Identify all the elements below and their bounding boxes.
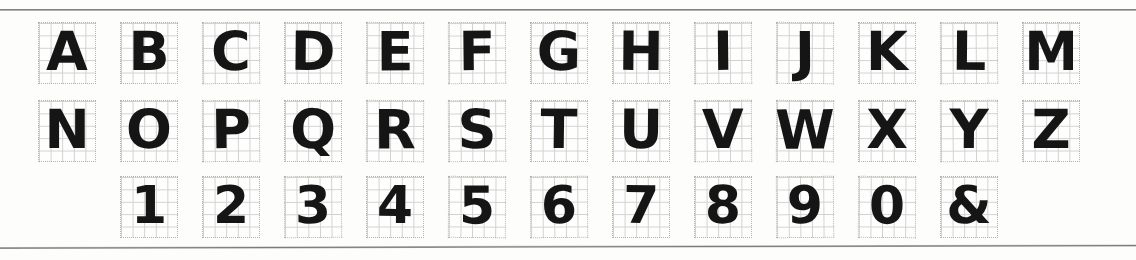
glyph-box: 9 [776, 176, 834, 238]
glyph-box: U [612, 100, 670, 162]
letters-row-1: ABCDEFGHIJKLM [0, 22, 1104, 94]
glyph-ampersand: & [940, 176, 998, 238]
glyph-9: 9 [776, 176, 835, 239]
glyph-box: 2 [202, 176, 260, 238]
glyph-2: 2 [202, 176, 260, 238]
glyph-box: X [858, 100, 916, 162]
glyph-f: F [448, 22, 507, 85]
glyph-box: P [202, 100, 260, 162]
glyph-box: Z [1022, 100, 1080, 162]
glyph-box: S [448, 100, 506, 162]
glyph-box: L [940, 22, 998, 84]
glyph-v: V [694, 100, 753, 163]
glyph-z: Z [1022, 100, 1080, 162]
glyph-box: T [530, 100, 588, 162]
glyph-g: G [530, 22, 589, 85]
glyph-p: P [202, 100, 261, 163]
glyph-box: V [694, 100, 752, 162]
glyph-box: Q [284, 100, 342, 162]
glyph-m: M [1022, 22, 1080, 84]
glyph-box: G [530, 22, 588, 84]
glyph-a: A [38, 22, 96, 84]
glyph-q: Q [284, 100, 343, 163]
glyph-l: L [940, 22, 999, 85]
glyph-u: U [612, 100, 671, 163]
glyph-box: B [120, 22, 178, 84]
glyph-o: O [120, 100, 178, 162]
glyph-box: M [1022, 22, 1080, 84]
glyph-box: F [448, 22, 506, 84]
glyph-box: A [38, 22, 96, 84]
glyph-4: 4 [366, 176, 425, 239]
top-horizontal-rule [0, 9, 1136, 11]
glyph-box: & [940, 176, 998, 238]
glyph-box: 0 [858, 176, 916, 238]
glyph-box: E [366, 22, 424, 84]
glyph-h: H [612, 22, 671, 85]
glyph-box: 4 [366, 176, 424, 238]
glyph-b: B [120, 22, 178, 84]
glyph-box: W [776, 100, 834, 162]
glyph-k: K [858, 22, 916, 84]
glyph-r: R [366, 100, 424, 162]
glyph-box: J [776, 22, 834, 84]
glyph-n: N [38, 100, 96, 162]
glyph-box: 5 [448, 176, 506, 238]
glyph-box: C [202, 22, 260, 84]
glyph-box: R [366, 100, 424, 162]
glyph-box: 3 [284, 176, 342, 238]
glyph-e: E [366, 22, 424, 84]
glyph-0: 0 [858, 176, 916, 238]
glyph-i: I [694, 22, 753, 85]
glyph-box: 1 [120, 176, 178, 238]
glyph-8: 8 [694, 176, 753, 239]
glyph-7: 7 [612, 176, 671, 239]
glyph-box: D [284, 22, 342, 84]
glyph-3: 3 [284, 176, 343, 239]
glyph-box: K [858, 22, 916, 84]
glyph-box: 6 [530, 176, 588, 238]
glyph-box: I [694, 22, 752, 84]
letters-row-2: NOPQRSTUVWXYZ [0, 100, 1104, 172]
glyph-y: Y [940, 100, 999, 163]
glyph-6: 6 [530, 176, 589, 239]
glyph-j: J [776, 22, 834, 84]
glyph-x: X [858, 100, 916, 162]
digits-row: 1234567890& [0, 176, 1022, 248]
glyph-box: H [612, 22, 670, 84]
glyph-box: 7 [612, 176, 670, 238]
glyph-box: 8 [694, 176, 752, 238]
glyph-5: 5 [448, 176, 506, 238]
glyph-box: O [120, 100, 178, 162]
glyph-s: S [448, 100, 507, 163]
glyph-w: W [776, 100, 834, 162]
glyph-c: C [202, 22, 261, 85]
glyph-box: N [38, 100, 96, 162]
glyph-box: Y [940, 100, 998, 162]
glyph-t: T [530, 100, 589, 163]
glyph-d: D [284, 22, 343, 85]
glyph-1: 1 [120, 176, 178, 238]
specimen-sheet: ABCDEFGHIJKLM NOPQRSTUVWXYZ 1234567890& [0, 0, 1136, 260]
